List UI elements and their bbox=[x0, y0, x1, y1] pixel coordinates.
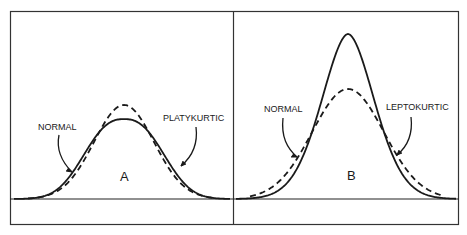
panel-a-normal-arrowhead-icon bbox=[66, 168, 72, 172]
outer-frame bbox=[11, 12, 459, 225]
panel-a-platykurtic-label: PLATYKURTIC bbox=[163, 113, 225, 123]
panel-b-letter: B bbox=[347, 168, 356, 183]
panel-b-normal-arrow bbox=[283, 118, 297, 157]
panel-b-normal-label: NORMAL bbox=[264, 104, 303, 114]
panel-a-letter: A bbox=[120, 169, 129, 184]
panel-a-normal-arrow bbox=[58, 135, 72, 172]
panel-a-normal-label: NORMAL bbox=[38, 122, 77, 132]
kurtosis-diagram: NORMAL PLATYKURTIC A NORMAL LEPTOKURTIC … bbox=[0, 0, 467, 235]
panel-b-leptokurtic-arrow bbox=[397, 117, 411, 155]
panel-b-leptokurtic-curve bbox=[236, 34, 456, 199]
panel-b-leptokurtic-label: LEPTOKURTIC bbox=[386, 102, 449, 112]
panel-a: NORMAL PLATYKURTIC A bbox=[14, 105, 230, 199]
panel-a-platykurtic-arrow bbox=[181, 127, 196, 166]
panel-b: NORMAL LEPTOKURTIC B bbox=[236, 34, 456, 199]
